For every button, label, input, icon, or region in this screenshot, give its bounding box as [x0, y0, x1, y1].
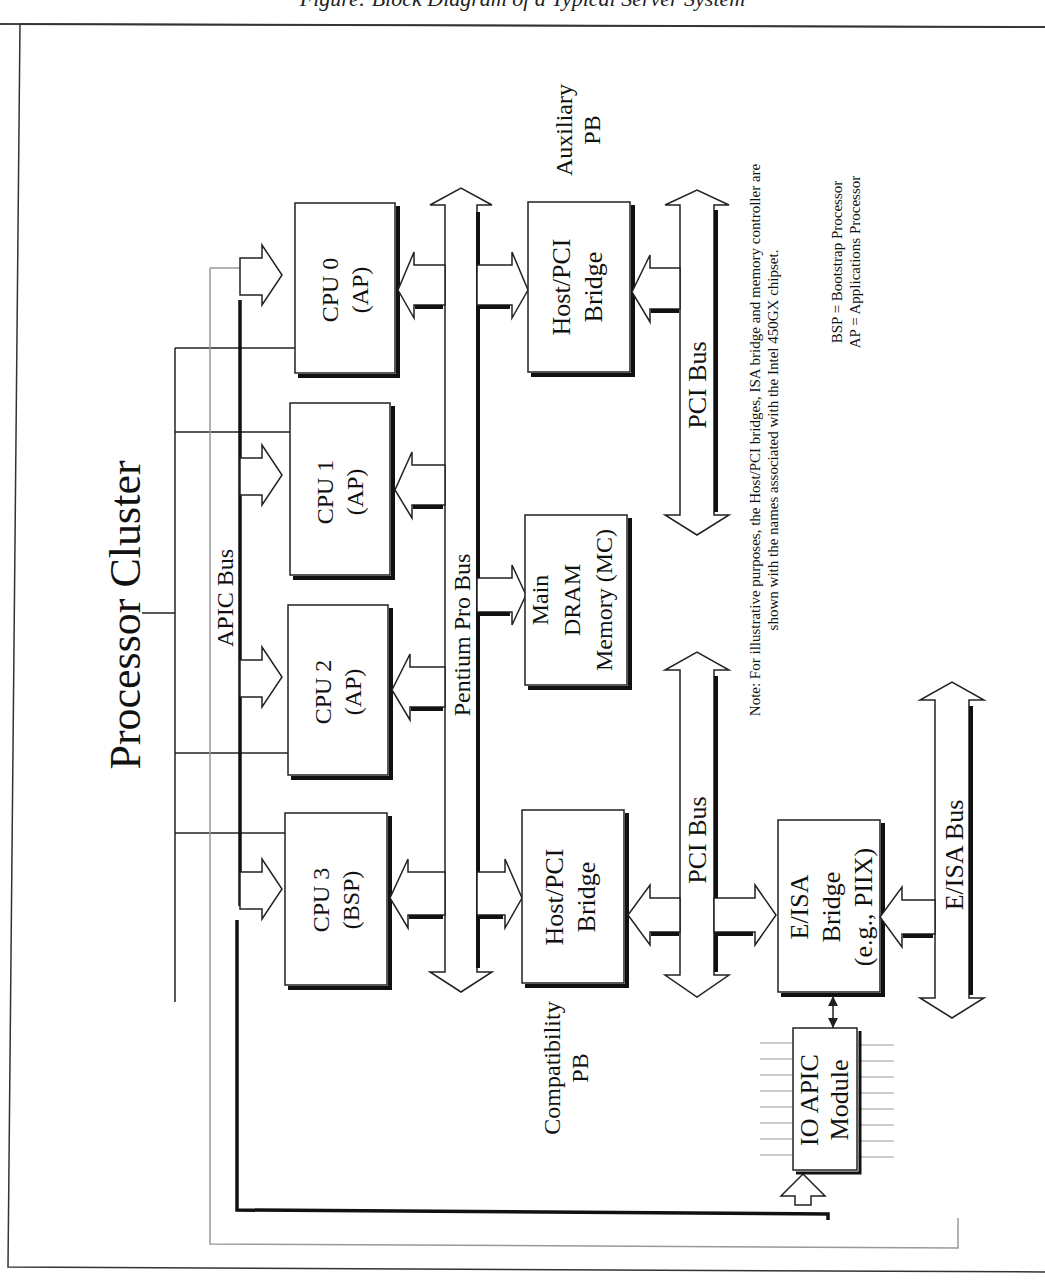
- svg-text:BSP = Bootstrap Processor: BSP = Bootstrap Processor: [829, 181, 845, 344]
- svg-text:(AP): (AP): [342, 469, 368, 516]
- block-diagram: Processor Cluster APIC Bus: [0, 0, 1045, 1287]
- svg-text:Compatibility: Compatibility: [539, 1001, 565, 1134]
- svg-text:PB: PB: [579, 115, 605, 144]
- pentium-pro-bus-label: Pentium Pro Bus: [449, 554, 475, 717]
- pci-bus-lower-label: PCI Bus: [683, 796, 712, 883]
- svg-text:(AP): (AP): [340, 669, 366, 716]
- chipset-note: Note: For illustrative purposes, the Hos…: [747, 163, 781, 716]
- eisa-bus-label: E/ISA Bus: [940, 800, 969, 911]
- svg-text:Bridge: Bridge: [572, 862, 601, 933]
- pci-bus-upper-label: PCI Bus: [683, 341, 712, 428]
- svg-text:Auxiliary: Auxiliary: [551, 84, 577, 176]
- svg-text:Module: Module: [825, 1060, 854, 1141]
- svg-text:DRAM: DRAM: [559, 564, 585, 636]
- svg-text:Note: For illustrative purpose: Note: For illustrative purposes, the Hos…: [747, 163, 763, 716]
- eisa-bridge: E/ISA Bridge (e.g., PIIX): [778, 820, 883, 995]
- svg-text:CPU 2: CPU 2: [310, 660, 336, 725]
- svg-text:E/ISA: E/ISA: [785, 874, 814, 939]
- svg-text:Host/PCI: Host/PCI: [547, 239, 576, 336]
- svg-text:(e.g., PIIX): (e.g., PIIX): [849, 848, 878, 966]
- abbreviation-legend: BSP = Bootstrap Processor AP = Applicati…: [829, 176, 863, 348]
- io-apic-module: IO APIC Module: [760, 996, 894, 1173]
- svg-text:Memory (MC): Memory (MC): [591, 529, 617, 671]
- svg-text:IO APIC: IO APIC: [795, 1054, 824, 1146]
- svg-text:AP = Applications Processor: AP = Applications Processor: [847, 176, 863, 348]
- svg-text:CPU 3: CPU 3: [308, 868, 334, 933]
- svg-text:CPU 0: CPU 0: [317, 258, 343, 323]
- processor-cluster-title: Processor Cluster: [101, 460, 150, 770]
- svg-text:Bridge: Bridge: [579, 252, 608, 323]
- apic-bus-label: APIC Bus: [212, 549, 238, 647]
- svg-text:Bridge: Bridge: [817, 872, 846, 943]
- svg-text:PB: PB: [567, 1053, 593, 1082]
- svg-text:(BSP): (BSP): [338, 871, 364, 930]
- pci-bus-upper: [632, 190, 729, 535]
- svg-text:(AP): (AP): [347, 267, 373, 314]
- auxiliary-pb-label: Auxiliary PB: [551, 84, 605, 176]
- compat-host-pci-bridge: Host/PCI Bridge: [522, 810, 627, 986]
- svg-text:CPU 1: CPU 1: [312, 460, 338, 525]
- svg-text:Main: Main: [527, 575, 553, 626]
- compatibility-pb-label: Compatibility PB: [539, 1001, 593, 1134]
- aux-host-pci-bridge: Host/PCI Bridge: [528, 202, 633, 375]
- svg-text:Host/PCI: Host/PCI: [540, 849, 569, 946]
- svg-text:shown with the names associate: shown with the names associated with the…: [765, 250, 781, 631]
- main-dram-memory: Main DRAM Memory (MC): [525, 515, 630, 688]
